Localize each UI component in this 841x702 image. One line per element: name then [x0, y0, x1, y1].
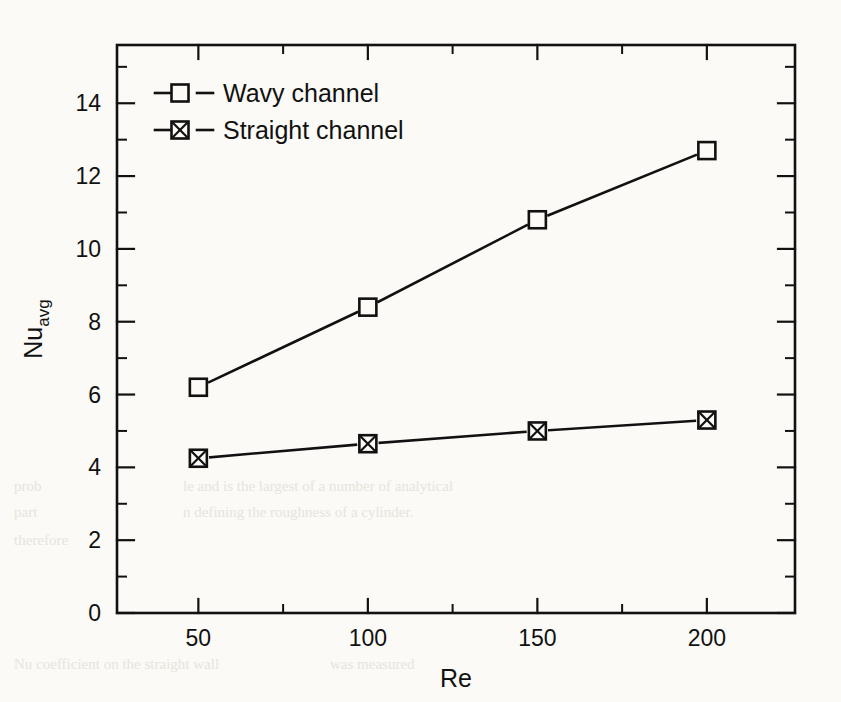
x-tick-label: 100 [349, 625, 387, 651]
y-axis-tick-labels: 02468101214 [75, 90, 101, 626]
y-tick-label: 0 [88, 600, 101, 626]
series-1 [190, 142, 716, 396]
data-point-marker [190, 450, 207, 467]
legend-label: Wavy channel [223, 79, 379, 107]
x-tick-label: 200 [688, 625, 726, 651]
data-point-marker [529, 211, 546, 228]
chart-legend: Wavy channelStraight channel [155, 79, 404, 144]
x-tick-label: 50 [186, 625, 212, 651]
series-2 [190, 412, 716, 467]
data-point-marker [359, 299, 376, 316]
y-tick-label: 12 [75, 163, 101, 189]
y-axis-label: Nuavg [19, 299, 53, 358]
data-series [190, 142, 716, 467]
line-chart: 50100150200 02468101214 Wavy channelStra… [0, 0, 841, 702]
axis-labels: ReNuavg [19, 299, 472, 692]
legend-label: Straight channel [223, 116, 404, 144]
data-point-marker [529, 422, 546, 439]
data-point-marker [698, 142, 715, 159]
data-point-marker [190, 379, 207, 396]
data-point-marker [698, 412, 715, 429]
data-point-marker [172, 85, 189, 102]
y-tick-label: 4 [88, 454, 101, 480]
y-tick-label: 10 [75, 236, 101, 262]
x-tick-label: 150 [518, 625, 556, 651]
plot-frame [117, 45, 795, 613]
figure-root: prob part le and is the largest of a num… [0, 0, 841, 702]
legend-item-2[interactable]: Straight channel [155, 116, 404, 144]
y-tick-label: 6 [88, 382, 101, 408]
y-tick-label: 2 [88, 527, 101, 553]
y-axis-ticks [117, 67, 795, 613]
y-tick-label: 14 [75, 90, 101, 116]
x-axis-label: Re [440, 664, 472, 692]
svg-text:Nuavg: Nuavg [19, 299, 53, 358]
x-axis-tick-labels: 50100150200 [186, 625, 726, 651]
y-tick-label: 8 [88, 309, 101, 335]
data-point-marker [359, 435, 376, 452]
data-point-marker [172, 122, 189, 139]
legend-item-1[interactable]: Wavy channel [155, 79, 379, 107]
